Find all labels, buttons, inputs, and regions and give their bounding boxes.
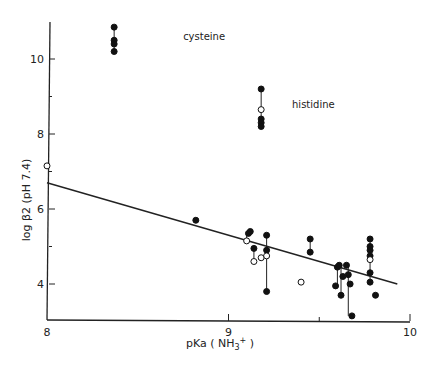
y-tick-label: 8 — [37, 128, 44, 141]
y-tick-label: 4 — [37, 278, 44, 291]
x-axis-label: pKa ( NH3+ ) — [186, 336, 254, 352]
axes — [47, 22, 410, 322]
regression-line — [47, 183, 397, 284]
open-point — [44, 163, 50, 169]
filled-point — [367, 247, 373, 253]
scatter-chart: 468108910 cysteinehistidine pKa ( NH3+ )… — [0, 0, 438, 368]
annotations: cysteinehistidine — [183, 31, 335, 110]
open-point — [244, 238, 250, 244]
open-point — [258, 107, 264, 113]
filled-point — [367, 279, 373, 285]
data-points — [44, 24, 379, 319]
filled-point — [338, 292, 344, 298]
filled-point — [264, 247, 270, 253]
filled-point — [345, 272, 351, 278]
x-tick-label: 8 — [44, 326, 51, 339]
y-axis-label: log β2 (pH 7.4) — [20, 159, 33, 242]
filled-point — [367, 236, 373, 242]
annotation-histidine: histidine — [292, 99, 335, 110]
filled-point — [349, 313, 355, 319]
annotation-cysteine: cysteine — [183, 31, 225, 42]
open-point — [264, 253, 270, 259]
filled-point — [307, 236, 313, 242]
open-point — [367, 257, 373, 263]
filled-point — [373, 292, 379, 298]
x-tick-label: 10 — [403, 326, 417, 339]
filled-point — [264, 232, 270, 238]
filled-point — [343, 262, 349, 268]
filled-point — [251, 245, 257, 251]
filled-point — [193, 217, 199, 223]
filled-point — [111, 49, 117, 55]
filled-point — [367, 270, 373, 276]
regression-line — [47, 183, 397, 284]
filled-point — [307, 249, 313, 255]
open-point — [251, 259, 257, 265]
filled-point — [336, 262, 342, 268]
open-point — [298, 279, 304, 285]
drop-lines — [114, 27, 370, 316]
y-tick-label: 6 — [37, 203, 44, 216]
filled-point — [247, 229, 253, 235]
filled-point — [264, 289, 270, 295]
filled-point — [258, 86, 264, 92]
filled-point — [111, 24, 117, 30]
filled-point — [111, 41, 117, 47]
filled-point — [347, 281, 353, 287]
filled-point — [333, 283, 339, 289]
y-tick-label: 10 — [30, 53, 44, 66]
ticks: 468108910 — [30, 53, 417, 339]
filled-point — [258, 124, 264, 130]
